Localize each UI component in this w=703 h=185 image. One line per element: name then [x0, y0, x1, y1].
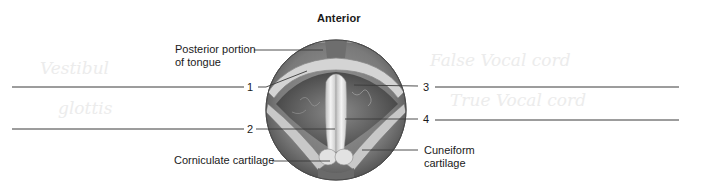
answer-blank-2[interactable]	[12, 114, 244, 129]
blank-number-1: 1	[247, 81, 253, 93]
label-cuneiform-line2: cartilage	[424, 157, 475, 170]
label-cuneiform-line1: Cuneiform	[424, 144, 475, 157]
blank-number-2: 2	[247, 123, 253, 135]
answer-blank-3[interactable]	[435, 72, 679, 87]
label-cuneiform-cartilage: Cuneiform cartilage	[424, 144, 475, 170]
blank-number-3: 3	[423, 81, 429, 93]
label-corniculate-cartilage: Corniculate cartilage	[174, 154, 274, 167]
label-posterior-tongue: Posterior portion of tongue	[175, 43, 256, 69]
answer-blank-1[interactable]	[12, 72, 244, 87]
label-posterior-tongue-line2: of tongue	[175, 56, 256, 69]
blank-number-4: 4	[423, 113, 429, 125]
diagram-title: Anterior	[317, 12, 361, 24]
larynx-illustration	[0, 0, 703, 185]
answer-blank-4[interactable]	[435, 105, 679, 120]
label-posterior-tongue-line1: Posterior portion	[175, 43, 256, 56]
